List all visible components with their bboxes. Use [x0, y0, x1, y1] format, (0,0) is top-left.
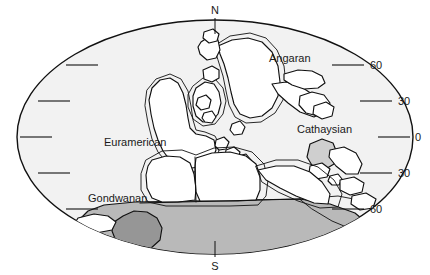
- region-label-euramerican: Euramerican: [104, 136, 166, 148]
- landmass-gondwanan-central: [195, 152, 260, 201]
- lat-label-0: 0: [415, 131, 421, 143]
- map-canvas: N S 60 30 0 30 60 Euramerican Angaran Ca…: [0, 0, 430, 275]
- microplate-a: [203, 66, 219, 82]
- lat-label-30n: 30: [398, 95, 410, 107]
- lat-label-60n: 60: [370, 59, 382, 71]
- paleogeographic-map-figure: N S 60 30 0 30 60 Euramerican Angaran Ca…: [0, 0, 430, 275]
- landmass-gondwanan-west: [146, 156, 196, 202]
- region-label-cathaysian: Cathaysian: [297, 123, 352, 135]
- region-label-gondwanan: Gondwanan: [88, 192, 147, 204]
- lat-label-60s: 60: [370, 203, 382, 215]
- lat-label-30s: 30: [398, 167, 410, 179]
- north-pole-label: N: [211, 4, 219, 16]
- south-pole-label: S: [211, 260, 218, 272]
- region-label-angaran: Angaran: [269, 52, 311, 64]
